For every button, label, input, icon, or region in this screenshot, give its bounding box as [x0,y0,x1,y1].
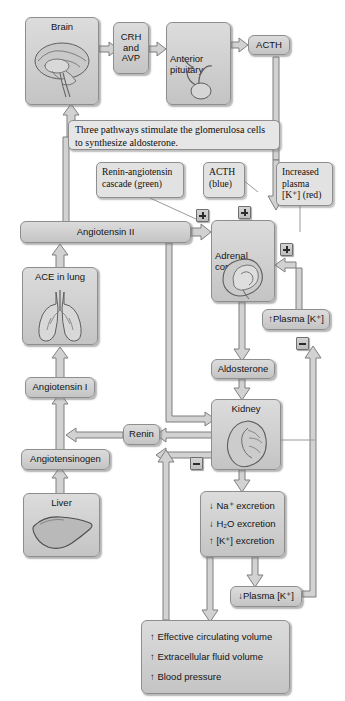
node-acth[interactable]: ACTH [248,35,290,55]
outcome-blood-pressure: ↑ Blood pressure [150,672,283,682]
node-acth-label: ACTH [256,40,282,51]
node-aldosterone[interactable]: Aldosterone [211,359,275,379]
callout-acth-blue-text: ACTH (blue) [209,166,235,189]
outcome-extracellular-fluid-volume: ↑ Extracellular fluid volume [150,652,283,662]
node-plasma-k-increase-label: ↑Plasma [K⁺] [268,314,324,325]
node-angiotensin-i[interactable]: Angiotensin I [25,377,95,398]
node-plasma-k-decrease[interactable]: ↓Plasma [K⁺] [230,586,302,607]
node-angiotensin-ii[interactable]: Angiotensin II [20,221,191,243]
diagram-canvas: .ln{fill:none;stroke:#8c8c8c;stroke-widt… [0,0,345,701]
node-outcomes[interactable]: ↑ Effective circulating volume ↑ Extrace… [141,620,290,694]
node-angiotensinogen[interactable]: Angiotensinogen [21,449,110,470]
node-aldosterone-label: Aldosterone [218,364,269,375]
callout-renin-angiotensin: Renin-angiotensin cascade (green) [96,162,184,198]
node-crh-line3: AVP [122,53,140,64]
node-anterior-pituitary[interactable]: Anterior pituitary [166,22,231,105]
callout-increased-plasma-k-text: Increased plasma [K⁺] (red) [282,166,321,200]
plus-sign-angiotensin [196,209,209,222]
node-liver[interactable]: Liver [23,493,100,557]
callout-acth-blue: ACTH (blue) [203,162,245,198]
plus-sign-acth [238,206,251,219]
node-angiotensin-i-label: Angiotensin I [33,382,88,393]
node-liver-label: Liver [27,498,96,509]
node-brain-label: Brain [29,22,95,33]
caption-text: Three pathways stimulate the glomerulosa… [75,124,265,148]
node-kidney[interactable]: Kidney [211,399,281,470]
node-kidney-label: Kidney [215,404,277,415]
node-angiotensinogen-label: Angiotensinogen [30,454,101,465]
minus-sign-kidney [190,457,203,470]
node-crh-line1: CRH [121,32,142,43]
node-adrenal-cortex[interactable]: Adrenal cortex [211,220,275,302]
excretion-h2o: ↓ H₂O excretion [209,519,278,529]
node-plasma-k-increase[interactable]: ↑Plasma [K⁺] [262,309,330,330]
plus-sign-potassium [280,243,293,256]
node-plasma-k-decrease-label: ↓Plasma [K⁺] [238,591,294,602]
node-crh-avp[interactable]: CRH and AVP [113,22,149,74]
node-brain[interactable]: Brain [25,17,99,105]
excretion-k: ↑ [K⁺] excretion [209,536,278,546]
excretion-na: ↓ Na⁺ excretion [209,501,278,511]
node-renin[interactable]: Renin [123,424,160,445]
callout-increased-plasma-k: Increased plasma [K⁺] (red) [276,162,333,206]
node-anterior-pituitary-line2: pituitary [170,65,203,76]
node-angiotensin-ii-label: Angiotensin II [77,227,135,238]
node-ace-in-lung[interactable]: ACE in lung [22,267,98,345]
node-ace-in-lung-label: ACE in lung [26,272,94,283]
node-renin-label: Renin [129,429,154,440]
callout-renin-angiotensin-text: Renin-angiotensin cascade (green) [102,166,172,189]
node-anterior-pituitary-line1: Anterior [170,54,203,65]
node-excretion-effects[interactable]: ↓ Na⁺ excretion ↓ H₂O excretion ↑ [K⁺] e… [200,491,285,557]
outcome-effective-circulating-volume: ↑ Effective circulating volume [150,632,283,642]
caption-three-pathways: Three pathways stimulate the glomerulosa… [68,120,280,150]
node-adrenal-cortex-line2: cortex [215,262,241,273]
minus-sign-plasma [296,337,309,350]
